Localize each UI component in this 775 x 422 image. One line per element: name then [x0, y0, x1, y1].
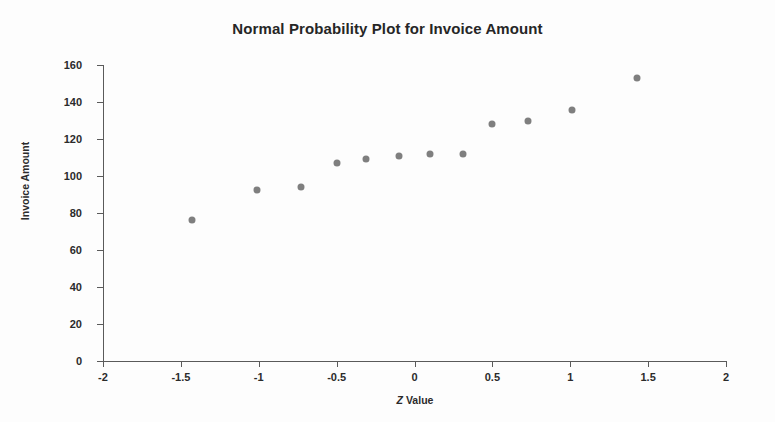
x-tick-label: 1 [545, 371, 595, 383]
plot-area [103, 65, 726, 361]
data-point [395, 152, 402, 159]
x-axis-title-text: Value [403, 394, 433, 406]
data-point [254, 186, 261, 193]
y-tick-label: 160 [36, 59, 82, 71]
y-tick-label: 0 [36, 355, 82, 367]
x-tick-mark [181, 361, 182, 367]
y-tick-label: 20 [36, 318, 82, 330]
x-tick-label: -1 [234, 371, 284, 383]
x-tick-label: -2 [78, 371, 128, 383]
data-point [297, 184, 304, 191]
x-tick-mark [337, 361, 338, 367]
data-point [333, 160, 340, 167]
x-tick-mark [570, 361, 571, 367]
data-point [459, 150, 466, 157]
normal-probability-plot: Normal Probability Plot for Invoice Amou… [0, 0, 775, 422]
x-tick-mark [259, 361, 260, 367]
chart-title: Normal Probability Plot for Invoice Amou… [0, 20, 775, 37]
x-tick-mark [648, 361, 649, 367]
x-tick-mark [415, 361, 416, 367]
x-tick-label: 1.5 [623, 371, 673, 383]
x-tick-mark [726, 361, 727, 367]
data-point [427, 150, 434, 157]
y-tick-label: 60 [36, 244, 82, 256]
x-tick-label: -1.5 [156, 371, 206, 383]
data-point [188, 217, 195, 224]
x-tick-label: -0.5 [312, 371, 362, 383]
x-tick-mark [492, 361, 493, 367]
data-point [363, 156, 370, 163]
y-tick-label: 80 [36, 207, 82, 219]
y-tick-label: 100 [36, 170, 82, 182]
data-point [634, 74, 641, 81]
data-point [568, 107, 575, 114]
y-tick-label: 40 [36, 281, 82, 293]
x-tick-label: 0 [390, 371, 440, 383]
y-tick-label: 120 [36, 133, 82, 145]
y-tick-label: 140 [36, 96, 82, 108]
x-axis-title: Z Value [103, 394, 727, 406]
x-tick-label: 0.5 [467, 371, 517, 383]
y-axis-title: Invoice Amount [19, 111, 31, 251]
x-tick-label: 2 [701, 371, 751, 383]
x-tick-mark [103, 361, 104, 367]
data-point [489, 121, 496, 128]
data-point [525, 118, 532, 125]
